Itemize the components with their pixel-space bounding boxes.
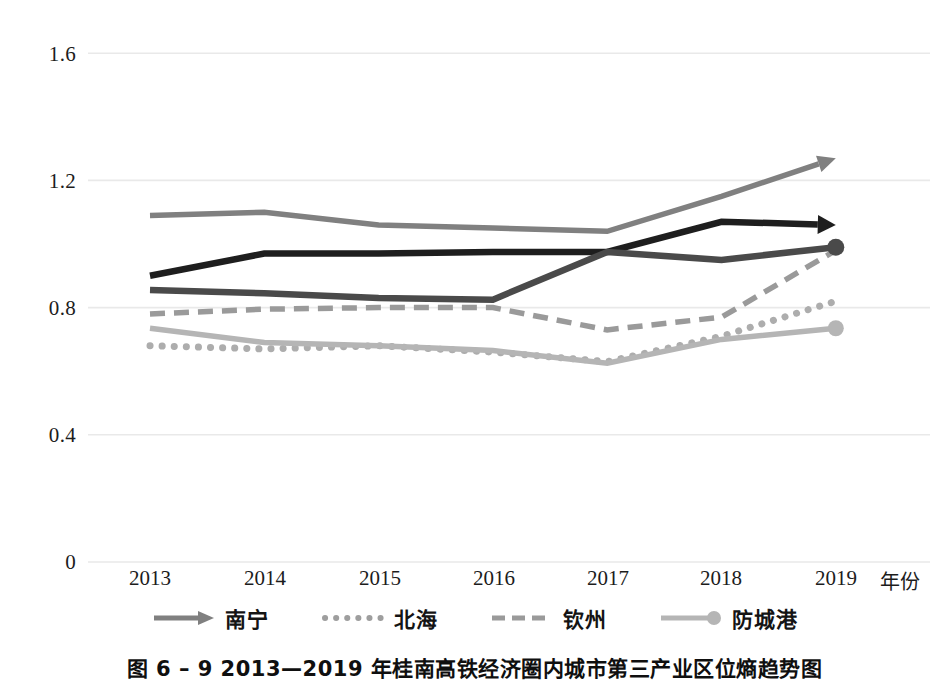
y-axis-tick-1-2: 1.2 <box>0 169 76 194</box>
legend-label-nanning: 南宁 <box>225 603 269 633</box>
series-防城港 <box>150 320 844 363</box>
y-axis-tick-1-6: 1.6 <box>0 42 76 67</box>
legend-label-fangchenggang: 防城港 <box>732 603 798 633</box>
legend-item-fangchenggang[interactable]: 防城港 <box>659 603 798 633</box>
legend-label-qinzhou: 钦州 <box>563 603 607 633</box>
x-axis-tick-2014: 2014 <box>205 566 325 591</box>
x-axis-tick-2016: 2016 <box>434 566 554 591</box>
y-axis-tick-0-4: 0.4 <box>0 423 76 448</box>
series-line-4 <box>150 215 836 276</box>
x-axis-tick-2019: 2019 <box>776 566 896 591</box>
y-axis-tick-0-8: 0.8 <box>0 296 76 321</box>
legend-swatch-solid-circle-icon <box>659 609 723 627</box>
chart-plot-area: 1.6 1.2 0.8 0.4 0 2013 2014 2015 2016 20… <box>0 0 949 580</box>
legend-swatch-dotted-icon <box>321 609 385 627</box>
y-axis-tick-0: 0 <box>0 550 76 575</box>
x-axis-tick-2013: 2013 <box>90 566 210 591</box>
chart-legend: 南宁 北海 钦州 防城港 <box>0 600 949 636</box>
legend-item-nanning[interactable]: 南宁 <box>152 603 269 633</box>
figure-caption: 图 6 – 9 2013—2019 年桂南高铁经济圈内城市第三产业区位熵趋势图 <box>0 652 949 682</box>
legend-swatch-solid-arrow-icon <box>152 609 216 627</box>
legend-swatch-dashed-icon <box>490 609 554 627</box>
legend-item-qinzhou[interactable]: 钦州 <box>490 603 607 633</box>
legend-item-beihai[interactable]: 北海 <box>321 603 438 633</box>
figure-root: 1.6 1.2 0.8 0.4 0 2013 2014 2015 2016 20… <box>0 0 949 697</box>
series-line-5 <box>150 239 844 300</box>
x-axis-tick-2018: 2018 <box>661 566 781 591</box>
x-axis-tick-2015: 2015 <box>320 566 440 591</box>
x-axis-tick-2017: 2017 <box>548 566 668 591</box>
line-chart-svg <box>0 0 949 580</box>
x-axis-title: 年份 <box>880 566 920 595</box>
legend-label-beihai: 北海 <box>394 603 438 633</box>
